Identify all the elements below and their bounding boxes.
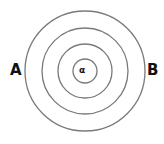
label-a: A xyxy=(10,63,22,78)
label-center: α xyxy=(79,65,85,75)
label-b: B xyxy=(147,63,158,78)
